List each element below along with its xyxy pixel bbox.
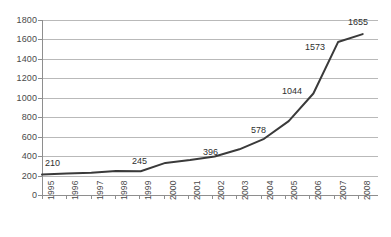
x-tick-2002	[212, 195, 213, 199]
x-tick-2006	[309, 195, 310, 199]
y-axis-label-1200: 1200	[1, 74, 37, 83]
y-axis-label-800: 800	[1, 113, 37, 122]
x-axis-label-2001: 2001	[193, 180, 202, 200]
y-axis-label-1000: 1000	[1, 94, 37, 103]
x-tick-2007	[334, 195, 335, 199]
x-axis-label-2006: 2006	[314, 180, 323, 200]
x-tick-1997	[91, 195, 92, 199]
y-axis-label-400: 400	[1, 152, 37, 161]
x-axis-label-2008: 2008	[363, 180, 372, 200]
x-tick-1998	[115, 195, 116, 199]
x-axis-label-2005: 2005	[290, 180, 299, 200]
x-tick-2000	[164, 195, 165, 199]
data-label-1573: 1573	[305, 43, 325, 52]
x-axis-line	[42, 195, 378, 196]
y-axis-label-600: 600	[1, 133, 37, 142]
y-axis-label-1800: 1800	[1, 16, 37, 25]
y-axis-label-0: 0	[1, 191, 37, 200]
x-axis-label-2000: 2000	[169, 180, 178, 200]
x-tick-1995	[42, 195, 43, 199]
x-axis-label-2002: 2002	[217, 180, 226, 200]
x-tick-1999	[139, 195, 140, 199]
x-axis-label-1996: 1996	[71, 180, 80, 200]
data-label-245: 245	[132, 157, 147, 166]
data-label-1655: 1655	[348, 18, 368, 27]
x-axis-label-1999: 1999	[144, 180, 153, 200]
data-label-1044: 1044	[282, 87, 302, 96]
y-axis-label-1400: 1400	[1, 55, 37, 64]
x-axis-label-1997: 1997	[96, 180, 105, 200]
x-axis-label-2007: 2007	[339, 180, 348, 200]
data-label-210: 210	[45, 159, 60, 168]
x-tick-2004	[261, 195, 262, 199]
x-axis-label-1998: 1998	[120, 180, 129, 200]
y-axis-label-200: 200	[1, 172, 37, 181]
series-line	[42, 20, 378, 195]
x-axis-label-2004: 2004	[266, 180, 275, 200]
x-tick-2003	[236, 195, 237, 199]
x-tick-2008	[358, 195, 359, 199]
plot-area	[42, 20, 378, 195]
x-axis-label-2003: 2003	[241, 180, 250, 200]
x-tick-2005	[285, 195, 286, 199]
y-axis-label-1600: 1600	[1, 35, 37, 44]
x-axis-label-1995: 1995	[47, 180, 56, 200]
line-chart: 1800 1600 1400 1200 1000 800 600 400 200…	[0, 0, 391, 237]
data-label-396: 396	[203, 148, 218, 157]
data-label-578: 578	[251, 126, 266, 135]
x-tick-1996	[66, 195, 67, 199]
x-tick-2001	[188, 195, 189, 199]
